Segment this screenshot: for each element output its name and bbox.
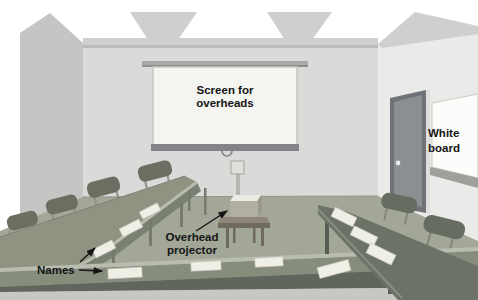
table-leg [204, 188, 207, 215]
names-arrow-lower [79, 270, 102, 271]
projector-table-top [218, 217, 270, 223]
table-leg [261, 226, 264, 246]
screen-label-line1: Screen for [197, 84, 254, 96]
screen-label: Screen for overheads [155, 84, 295, 110]
projector-label: Overhead projector [132, 231, 252, 257]
names-label-text: Names [37, 264, 75, 276]
name-card [191, 261, 221, 272]
name-card [255, 257, 283, 267]
whiteboard-label: White board [428, 126, 460, 156]
projector-body-top [230, 195, 261, 201]
room-diagram: Screen for overheads White board Overhea… [0, 0, 478, 300]
screen-bottom-bar [151, 144, 299, 151]
table-leg [253, 226, 256, 243]
projector-arm [236, 173, 240, 197]
projector-label-line1: Overhead [165, 231, 218, 243]
name-card [108, 267, 142, 279]
projector-body [230, 201, 258, 217]
wall-top-line [83, 45, 378, 48]
projector-label-line2: projector [167, 244, 217, 256]
screen-label-line2: overheads [196, 97, 254, 109]
whiteboard-label-line2: board [428, 142, 460, 154]
projector-table-edge [218, 223, 270, 228]
door-panel [394, 95, 422, 207]
names-label: Names [37, 264, 75, 277]
table-leg [180, 203, 183, 227]
whiteboard-label-line1: White [428, 127, 459, 139]
projector-head [231, 161, 244, 174]
door-knob [396, 161, 401, 166]
